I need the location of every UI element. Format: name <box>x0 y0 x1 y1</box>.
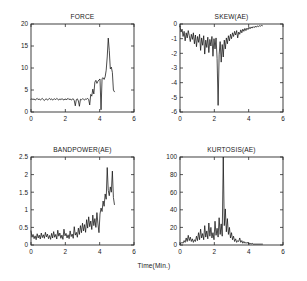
y-tick-label: 10 <box>21 64 29 71</box>
x-tick-label: 2 <box>64 248 68 255</box>
x-tick-label: 6 <box>132 115 136 122</box>
y-tick-label: -2 <box>171 50 177 57</box>
y-tick-label: 0 <box>24 241 28 248</box>
x-tick-label: 2 <box>213 248 217 255</box>
y-tick-label: -6 <box>171 108 177 115</box>
subplot-title: SKEW(AE) <box>215 13 249 21</box>
x-tick-label: 2 <box>213 115 217 122</box>
subplot-title: FORCE <box>71 13 95 20</box>
x-axis-label: Time(Min.) <box>138 262 171 270</box>
y-tick-label: -3 <box>171 64 177 71</box>
y-tick-label: 15 <box>21 42 29 49</box>
y-tick-label: -5 <box>171 94 177 101</box>
subplot-title: BANDPOWER(AE) <box>53 146 111 154</box>
multi-panel-plot: 024605101520FORCE 0246-6-5-4-3-2-10SKEW(… <box>0 0 307 281</box>
y-tick-label: -1 <box>171 35 177 42</box>
y-tick-label: 40 <box>170 206 178 213</box>
x-tick-label: 4 <box>247 248 251 255</box>
y-tick-label: 5 <box>24 86 28 93</box>
x-tick-label: 0 <box>29 248 33 255</box>
x-tick-label: 4 <box>98 115 102 122</box>
y-tick-label: 1 <box>24 206 28 213</box>
y-tick-label: 100 <box>166 153 177 160</box>
x-tick-label: 0 <box>178 248 182 255</box>
x-tick-label: 4 <box>98 248 102 255</box>
y-tick-label: 0 <box>173 20 177 27</box>
x-tick-label: 6 <box>132 248 136 255</box>
y-tick-label: 1.5 <box>19 189 28 196</box>
y-tick-label: 0 <box>173 241 177 248</box>
x-tick-label: 4 <box>247 115 251 122</box>
y-tick-label: 0.5 <box>19 224 28 231</box>
x-tick-label: 0 <box>29 115 33 122</box>
x-tick-label: 6 <box>281 115 285 122</box>
figure-background <box>0 0 307 281</box>
y-tick-label: 80 <box>170 171 178 178</box>
y-tick-label: 60 <box>170 189 178 196</box>
x-tick-label: 2 <box>64 115 68 122</box>
y-tick-label: 0 <box>24 108 28 115</box>
y-tick-label: 20 <box>21 20 29 27</box>
subplot-title: KURTOSIS(AE) <box>207 146 255 154</box>
y-tick-label: 2 <box>24 171 28 178</box>
figure-panel: 024605101520FORCE 0246-6-5-4-3-2-10SKEW(… <box>0 0 307 281</box>
y-tick-label: 20 <box>170 224 178 231</box>
x-tick-label: 0 <box>178 115 182 122</box>
y-tick-label: 2.5 <box>19 153 28 160</box>
y-tick-label: -4 <box>171 79 177 86</box>
x-tick-label: 6 <box>281 248 285 255</box>
